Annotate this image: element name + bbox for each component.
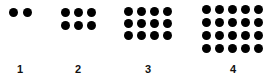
group-label-3: 3: [145, 63, 151, 75]
group-label-4: 4: [230, 63, 236, 75]
dot: [202, 18, 211, 27]
dot: [228, 5, 237, 14]
dot: [202, 31, 211, 40]
dot: [241, 44, 250, 53]
dot: [215, 18, 224, 27]
dot: [241, 18, 250, 27]
dot: [241, 5, 250, 14]
dot-group-4: [0, 0, 267, 78]
group-label-2: 2: [75, 63, 81, 75]
dot: [215, 44, 224, 53]
dot: [254, 5, 263, 14]
dot: [241, 31, 250, 40]
dot: [228, 44, 237, 53]
dot: [202, 5, 211, 14]
dot: [254, 44, 263, 53]
dot: [254, 31, 263, 40]
dot: [202, 44, 211, 53]
dot: [228, 18, 237, 27]
dot: [215, 5, 224, 14]
dot: [215, 31, 224, 40]
group-label-1: 1: [17, 63, 23, 75]
dot: [254, 18, 263, 27]
dot: [228, 31, 237, 40]
